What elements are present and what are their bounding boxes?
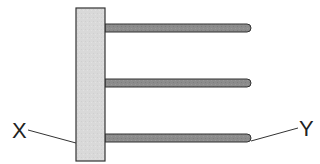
rod-top [105, 24, 251, 32]
vertical-bar [76, 8, 105, 161]
rod-middle [105, 79, 251, 87]
diagram-canvas [0, 0, 320, 164]
leader-line-y [251, 128, 298, 141]
rod-bottom [105, 134, 251, 142]
label-y: Y [299, 118, 314, 140]
label-x: X [12, 120, 27, 142]
leader-line-x [28, 130, 76, 143]
